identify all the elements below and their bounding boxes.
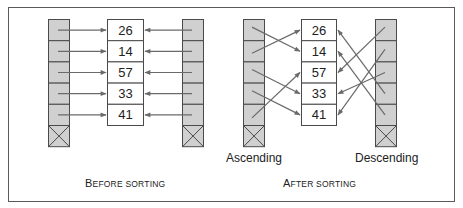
data-value: 57 — [312, 65, 326, 80]
data-value: 57 — [118, 65, 132, 80]
after-sorting-caption: AFTER SORTING — [283, 177, 356, 189]
pointer-slot — [376, 104, 397, 125]
data-array: 2614573341 — [108, 20, 144, 126]
caption-initial: A — [283, 177, 291, 189]
data-value: 26 — [118, 23, 132, 38]
data-value: 33 — [312, 86, 326, 101]
data-value: 26 — [312, 23, 326, 38]
descending-pointer-column — [376, 20, 397, 147]
data-value: 14 — [118, 44, 132, 59]
pointer-slot — [244, 83, 265, 104]
before-sorting-caption: BEFORE SORTING — [85, 177, 165, 189]
caption-rest: FTER SORTING — [291, 179, 357, 189]
left-pointer-column — [49, 20, 70, 147]
data-value: 14 — [312, 44, 326, 59]
data-value: 33 — [118, 86, 132, 101]
pointer-slot — [244, 104, 265, 125]
sorting-diagram: 2614573341 2614573341 — [0, 0, 463, 208]
data-value: 41 — [312, 107, 326, 122]
ascending-pointer-column — [244, 20, 265, 147]
data-array: 2614573341 — [302, 20, 337, 126]
caption-initial: B — [85, 177, 93, 189]
pointer-slot — [376, 20, 397, 41]
data-value: 41 — [118, 107, 132, 122]
before-sorting-panel: 2614573341 — [49, 20, 204, 147]
right-pointer-column — [183, 20, 204, 147]
descending-label: Descending — [355, 151, 418, 165]
pointer-slot — [376, 83, 397, 104]
pointer-slot — [244, 62, 265, 83]
pointer-slot — [376, 62, 397, 83]
pointer-slot — [244, 20, 265, 41]
after-sorting-panel: 2614573341 — [244, 20, 397, 147]
pointer-slot — [244, 41, 265, 62]
ascending-label: Ascending — [226, 151, 282, 165]
caption-rest: EFORE SORTING — [93, 179, 166, 189]
